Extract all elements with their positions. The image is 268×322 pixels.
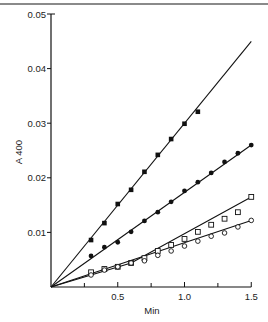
y-axis-label: A 400	[13, 140, 24, 164]
filled-circle-marker	[169, 199, 174, 204]
filled-circle-marker	[102, 245, 107, 250]
open-circle-marker	[156, 253, 161, 258]
open-circle-marker	[182, 244, 187, 249]
y-tick-label: 0.02	[28, 172, 47, 183]
data-points	[89, 109, 254, 277]
filled-square-marker	[129, 188, 134, 193]
open-circles-fit-line	[51, 220, 251, 287]
filled-circle-marker	[182, 189, 187, 194]
open-square-marker	[182, 237, 187, 242]
filled-circle-marker	[195, 180, 200, 185]
filled-square-marker	[89, 238, 94, 243]
open-circle-marker	[169, 249, 174, 254]
filled-circle-marker	[89, 253, 94, 258]
open-square-marker	[236, 210, 241, 215]
open-circle-marker	[129, 261, 134, 266]
filled-circle-marker	[209, 170, 214, 175]
open-circle-marker	[115, 264, 120, 269]
filled-square-marker	[182, 121, 187, 126]
open-circle-marker	[142, 258, 147, 263]
filled-circle-marker	[249, 143, 254, 148]
filled-square-marker	[169, 137, 174, 142]
open-circle-marker	[222, 231, 227, 236]
y-tick-label: 0.01	[28, 227, 47, 238]
open-circle-marker	[89, 273, 94, 278]
open-circle-marker	[102, 268, 107, 273]
x-tick-label: 1.0	[178, 291, 191, 302]
filled-square-marker	[196, 109, 201, 114]
filled-squares-fit-line	[51, 41, 251, 287]
filled-circle-marker	[115, 240, 120, 245]
filled-square-marker	[156, 153, 161, 158]
filled-circle-marker	[155, 210, 160, 215]
x-tick-label: 1.5	[245, 291, 258, 302]
filled-circle-marker	[222, 160, 227, 165]
filled-circle-marker	[129, 229, 134, 234]
open-squares-fit-line	[51, 197, 251, 287]
fit-lines	[51, 41, 251, 287]
y-tick-label: 0.03	[28, 118, 47, 129]
open-square-marker	[209, 222, 214, 227]
y-tick-label: 0.04	[28, 63, 47, 74]
filled-square-marker	[115, 202, 120, 207]
open-circle-marker	[209, 234, 214, 239]
x-axis-label: Min	[144, 305, 159, 316]
open-circle-marker	[236, 225, 241, 230]
filled-circles-fit-line	[51, 145, 251, 287]
open-square-marker	[169, 243, 174, 248]
y-tick-label: 0.05	[28, 9, 47, 20]
filled-square-marker	[102, 221, 107, 226]
absorbance-time-chart: 0.010.020.030.040.050.51.01.5 Min A 400	[0, 0, 268, 322]
filled-square-marker	[142, 169, 147, 174]
open-square-marker	[195, 229, 200, 234]
open-square-marker	[222, 216, 227, 221]
open-circle-marker	[249, 218, 254, 223]
open-square-marker	[249, 195, 254, 200]
open-circle-marker	[196, 239, 201, 244]
filled-circle-marker	[142, 219, 147, 224]
x-tick-label: 0.5	[111, 291, 124, 302]
filled-circle-marker	[236, 151, 241, 156]
